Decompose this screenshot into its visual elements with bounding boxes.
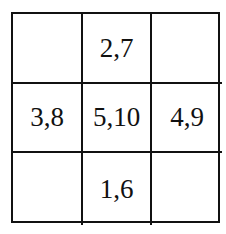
grid-cell-r1c3: [152, 14, 222, 84]
grid-cell-r2c3: 4,9: [152, 84, 222, 153]
grid-cell-r3c2: 1,6: [83, 153, 152, 225]
grid-cell-r1c1: [13, 14, 83, 84]
grid-cell-r2c1: 3,8: [13, 84, 83, 153]
grid-cell-r3c3: [152, 153, 222, 225]
grid-cell-r2c2: 5,10: [83, 84, 152, 153]
number-grid: 2,7 3,8 5,10 4,9 1,6: [11, 12, 220, 223]
grid-cell-r3c1: [13, 153, 83, 225]
grid-cell-r1c2: 2,7: [83, 14, 152, 84]
